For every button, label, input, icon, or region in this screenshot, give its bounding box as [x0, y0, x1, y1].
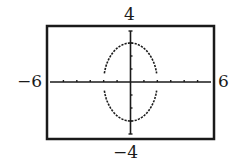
axes — [50, 31, 211, 134]
ymax-label: 4 — [124, 6, 135, 23]
xmax-label: 6 — [218, 73, 229, 90]
xmin-label: −6 — [17, 73, 42, 90]
ymin-label: −4 — [113, 144, 138, 161]
